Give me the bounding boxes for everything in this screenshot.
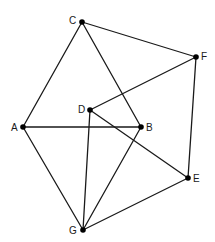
edges-group [23,22,196,230]
nodes-group [20,19,199,233]
edge-c-a [23,22,82,127]
node-label-d: D [78,104,85,115]
edge-e-g [83,178,188,230]
node-label-c: C [69,15,76,26]
node-a [20,124,26,130]
labels-group: ABCDEFG [11,15,207,236]
node-f [193,54,199,60]
node-label-b: B [146,122,153,133]
edge-d-g [83,110,90,230]
edge-f-e [188,57,196,178]
node-b [138,124,144,130]
node-d [87,107,93,113]
node-label-a: A [11,122,18,133]
edge-b-g [83,127,141,230]
node-label-f: F [201,51,207,62]
edge-d-e [90,110,188,178]
node-e [185,175,191,181]
graph-diagram: ABCDEFG [0,0,215,242]
node-label-e: E [193,173,200,184]
node-c [79,19,85,25]
node-g [80,227,86,233]
edge-a-g [23,127,83,230]
node-label-g: G [69,225,77,236]
